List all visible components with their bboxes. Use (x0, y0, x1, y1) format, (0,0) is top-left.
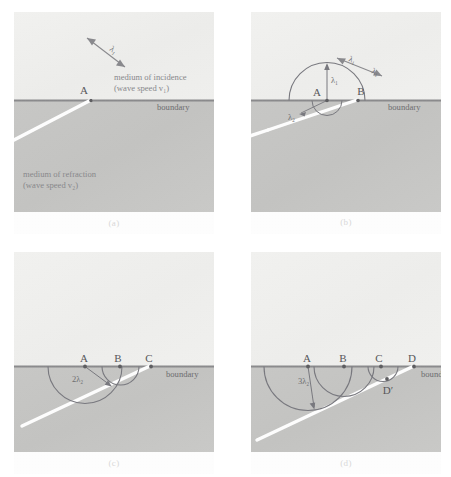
panel-c-boundary-label: boundary (166, 369, 199, 379)
point-b-marker (356, 99, 360, 103)
panel-b-boundary-label: boundary (388, 102, 421, 112)
panel-c-wavelet-radius-label: 2λ₂ (72, 374, 83, 384)
medium-of-refraction-region (251, 100, 441, 212)
medium-of-refraction-label-line2: (wave speed v₂) (23, 180, 78, 190)
figure-panel-c: 2λ₂ A B C boundary (c) (14, 252, 214, 474)
figure-panel-d: 3λ₂ A B C D D′ boundary (d) (251, 252, 441, 474)
medium-of-refraction-label-line1: medium of refraction (23, 169, 97, 179)
panel-a-caption: (a) (14, 218, 214, 228)
point-d-prime-marker (385, 377, 389, 381)
figure-grid: λ₁ A medium of incidence (wave speed v₁)… (0, 0, 451, 477)
point-b-label: B (357, 85, 364, 97)
point-d-marker (412, 365, 416, 369)
panel-b-diagram: λ₁ λ₂ λ₁ λ₁ A B boundary (251, 12, 441, 212)
panel-b-lambda2-label: λ₂ (288, 112, 295, 122)
point-c-marker (149, 365, 153, 369)
point-d-label: D (408, 352, 416, 364)
point-b-marker (118, 365, 122, 369)
point-a-label: A (80, 84, 88, 96)
medium-of-refraction-region (14, 100, 214, 212)
medium-of-incidence-label-line1: medium of incidence (114, 72, 187, 82)
panel-b-caption: (b) (251, 217, 441, 227)
medium-of-incidence-label-line2: (wave speed v₁) (114, 83, 169, 93)
point-d-prime-label: D′ (383, 384, 393, 396)
medium-of-incidence-region (14, 252, 214, 366)
figure-panel-a: λ₁ A medium of incidence (wave speed v₁)… (14, 12, 214, 234)
point-b-marker (342, 365, 346, 369)
point-c-label: C (375, 352, 382, 364)
medium-of-incidence-region (251, 12, 441, 100)
panel-d-wavelet-radius-label: 3λ₂ (298, 376, 309, 386)
point-c-marker (379, 365, 383, 369)
point-a-marker (83, 365, 87, 369)
point-c-label: C (145, 352, 152, 364)
point-a-label: A (313, 86, 321, 98)
panel-a-diagram: λ₁ A medium of incidence (wave speed v₁)… (14, 12, 214, 212)
point-a-marker (89, 99, 93, 103)
panel-b-wavelet-radius-label: λ₁ (331, 75, 338, 85)
panel-d-caption: (d) (251, 458, 441, 468)
point-b-label: B (339, 352, 346, 364)
panel-c-diagram: 2λ₂ A B C boundary (14, 252, 214, 452)
medium-of-refraction-region (251, 366, 441, 452)
point-b-label: B (114, 352, 121, 364)
point-a-marker (306, 365, 310, 369)
point-a-marker (325, 99, 329, 103)
point-a-label: A (303, 352, 311, 364)
panel-c-caption: (c) (14, 458, 214, 468)
panel-a-boundary-label: boundary (157, 102, 190, 112)
panel-d-diagram: 3λ₂ A B C D D′ boundary (251, 252, 441, 452)
point-a-label: A (80, 352, 88, 364)
figure-panel-b: λ₁ λ₂ λ₁ λ₁ A B boundary (b) (251, 12, 441, 234)
panel-d-boundary-label: boundary (421, 369, 441, 379)
medium-of-incidence-region (251, 252, 441, 366)
